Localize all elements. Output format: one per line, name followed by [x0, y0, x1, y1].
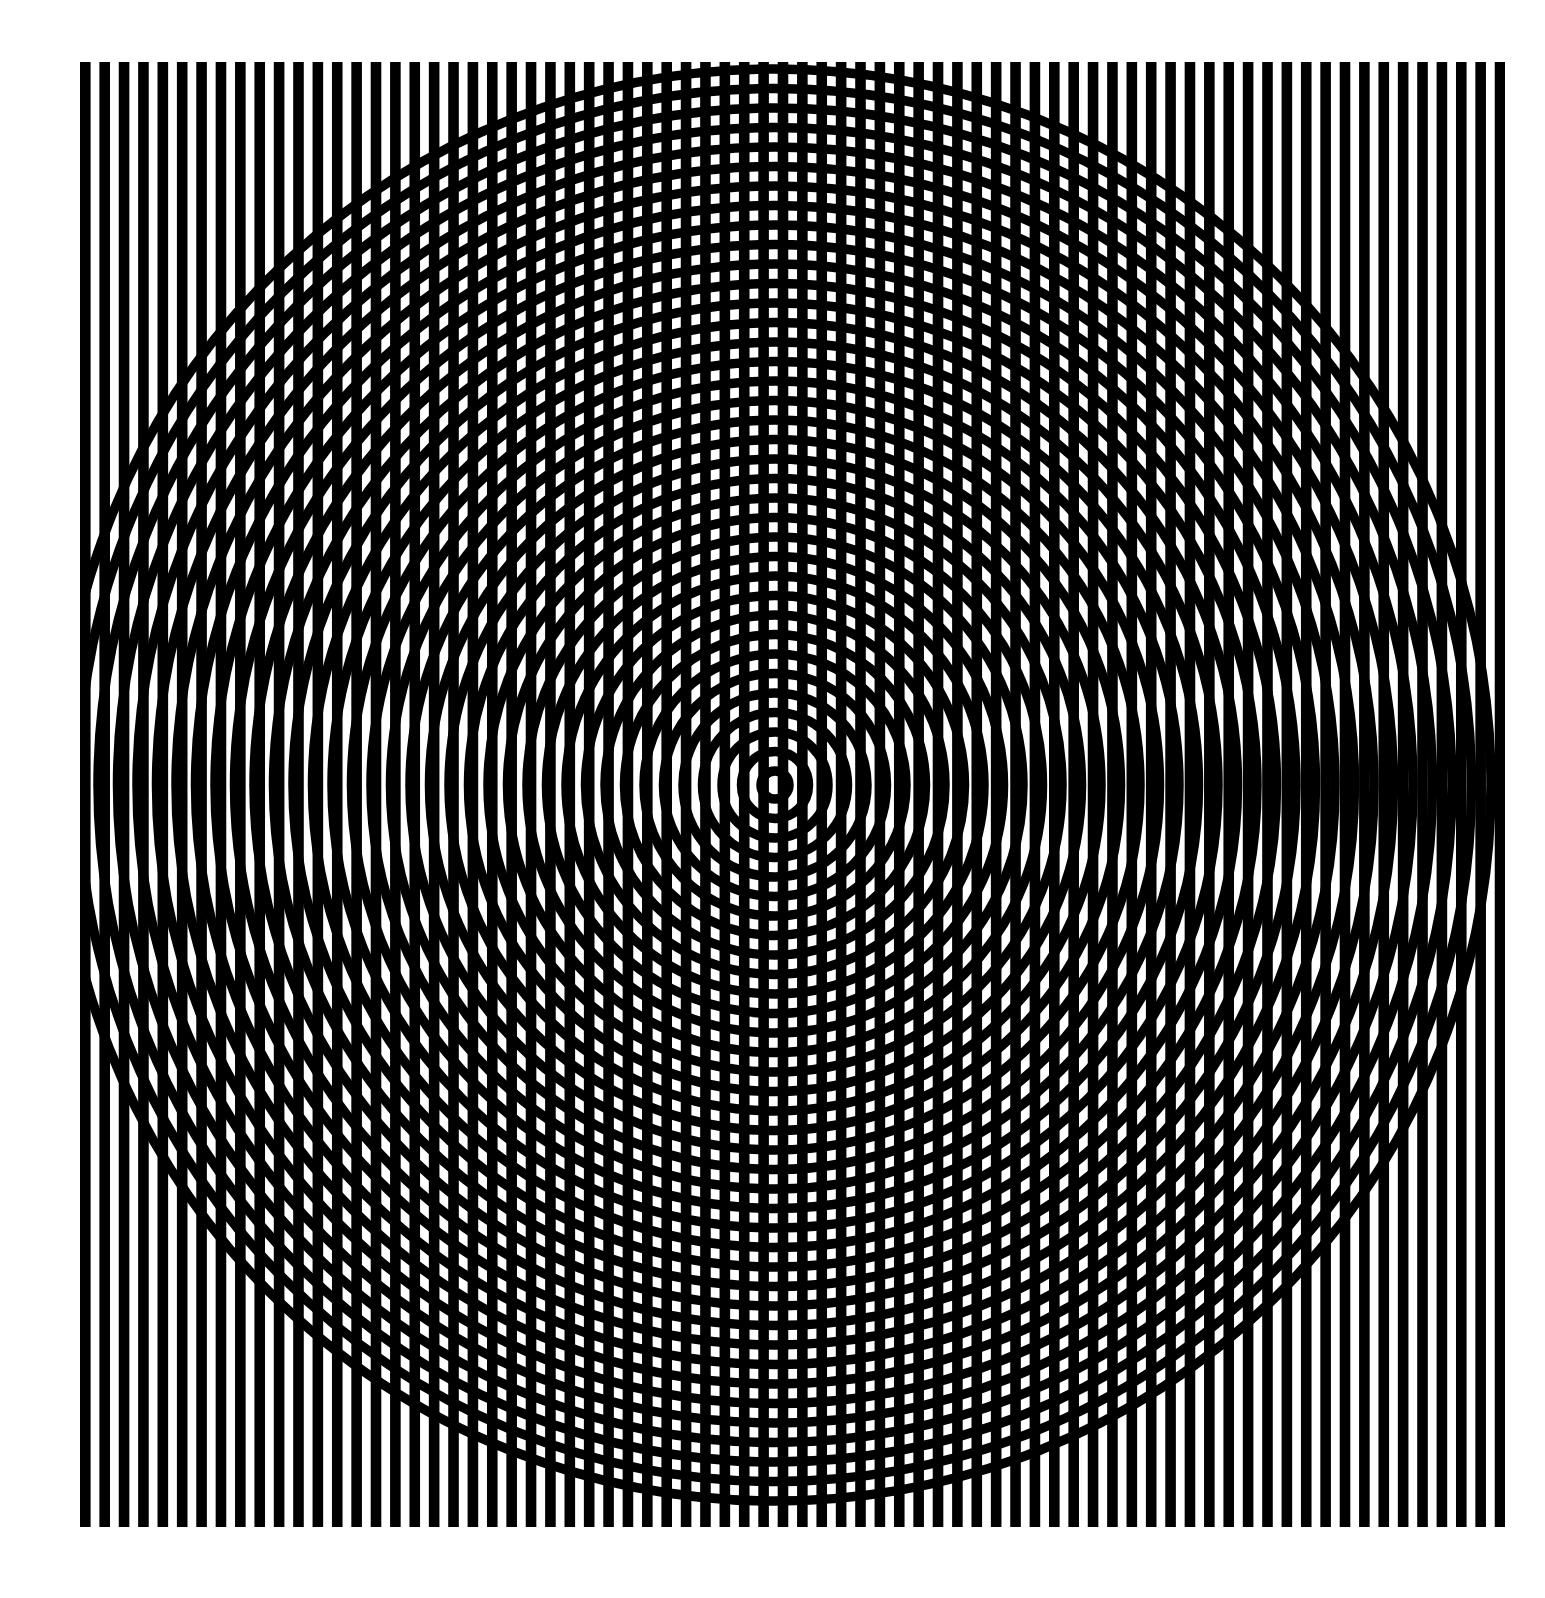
- vertical-grating-line: [99, 62, 110, 1527]
- vertical-grating-line: [855, 62, 866, 1527]
- artwork-canvas: [0, 0, 1545, 1598]
- vertical-grating-line: [332, 62, 343, 1527]
- vertical-grating-line: [448, 62, 459, 1527]
- vertical-grating-line: [1456, 62, 1467, 1527]
- vertical-grating-line: [274, 62, 285, 1527]
- vertical-grating-line: [1223, 62, 1234, 1527]
- vertical-grating-line: [933, 62, 944, 1527]
- vertical-grating-line: [971, 62, 982, 1527]
- vertical-grating-line: [778, 62, 789, 1527]
- vertical-grating-line: [681, 62, 692, 1527]
- vertical-grating-line: [293, 62, 304, 1527]
- vertical-grating-line: [313, 62, 324, 1527]
- vertical-grating-line: [700, 62, 711, 1527]
- vertical-grating-line: [254, 62, 265, 1527]
- vertical-grating-line: [1107, 62, 1118, 1527]
- vertical-grating-line: [875, 62, 886, 1527]
- vertical-grating-line: [1068, 62, 1079, 1527]
- vertical-grating-line: [1185, 62, 1196, 1527]
- vertical-grating-line: [952, 62, 963, 1527]
- vertical-grating-line: [1088, 62, 1099, 1527]
- vertical-grating-line: [1262, 62, 1273, 1527]
- vertical-grating-line: [216, 62, 227, 1527]
- vertical-grating-line: [565, 62, 576, 1527]
- vertical-grating-line: [351, 62, 362, 1527]
- vertical-grating-line: [1165, 62, 1176, 1527]
- vertical-grating-line: [1030, 62, 1041, 1527]
- vertical-grating-line: [1320, 62, 1331, 1527]
- vertical-grating-line: [409, 62, 420, 1527]
- vertical-grating-line: [913, 62, 924, 1527]
- vertical-grating-line: [720, 62, 731, 1527]
- vertical-grating-line: [894, 62, 905, 1527]
- vertical-grating-line: [1475, 62, 1486, 1527]
- vertical-grating-line: [429, 62, 440, 1527]
- vertical-grating-line: [797, 62, 808, 1527]
- vertical-grating-line: [1010, 62, 1021, 1527]
- vertical-grating-line: [623, 62, 634, 1527]
- vertical-grating-line: [584, 62, 595, 1527]
- vertical-grating-line: [661, 62, 672, 1527]
- vertical-grating-line: [526, 62, 537, 1527]
- vertical-grating-line: [1243, 62, 1254, 1527]
- vertical-grating-line: [816, 62, 827, 1527]
- vertical-grating-line: [1417, 62, 1428, 1527]
- moire-plate: [0, 0, 1545, 1598]
- vertical-grating-line: [1049, 62, 1060, 1527]
- vertical-grating-line: [1282, 62, 1293, 1527]
- vertical-grating-line: [758, 62, 769, 1527]
- vertical-grating-line: [80, 62, 91, 1527]
- vertical-grating-line: [138, 62, 149, 1527]
- vertical-grating-line: [1127, 62, 1138, 1527]
- vertical-grating-line: [603, 62, 614, 1527]
- vertical-grating-line: [1398, 62, 1409, 1527]
- vertical-grating-line: [177, 62, 188, 1527]
- vertical-grating-line: [1204, 62, 1215, 1527]
- vertical-grating-line: [1340, 62, 1351, 1527]
- vertical-grating-line: [158, 62, 169, 1527]
- vertical-grating-line: [1495, 62, 1506, 1527]
- vertical-grating-line: [196, 62, 207, 1527]
- vertical-grating-line: [487, 62, 498, 1527]
- vertical-grating-line: [1378, 62, 1389, 1527]
- vertical-grating-line: [506, 62, 517, 1527]
- vertical-grating-line: [235, 62, 246, 1527]
- vertical-grating-line: [836, 62, 847, 1527]
- vertical-grating-line: [390, 62, 401, 1527]
- vertical-grating-line: [642, 62, 653, 1527]
- vertical-grating-line: [371, 62, 382, 1527]
- vertical-grating-line: [119, 62, 130, 1527]
- vertical-grating-line: [991, 62, 1002, 1527]
- vertical-grating-line: [1359, 62, 1370, 1527]
- vertical-grating-line: [1146, 62, 1157, 1527]
- vertical-grating-line: [1437, 62, 1448, 1527]
- vertical-grating-line: [739, 62, 750, 1527]
- vertical-grating-line: [1301, 62, 1312, 1527]
- vertical-grating-line: [545, 62, 556, 1527]
- vertical-grating-line: [468, 62, 479, 1527]
